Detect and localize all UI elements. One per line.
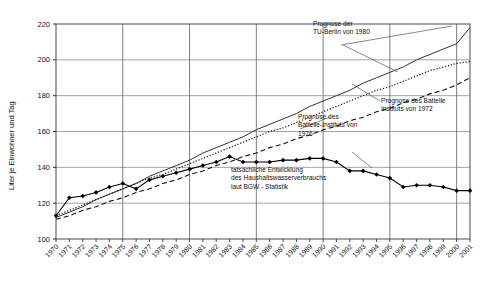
- anno-actual-line: des Haushaltswasserverbrauchs: [231, 174, 327, 181]
- anno-battelle-1972-line: Instituts von 1972: [381, 105, 433, 112]
- chart-container: 220200180160140120100 197019711972197319…: [0, 0, 493, 281]
- y-tick-label: 160: [37, 127, 50, 136]
- y-tick-label: 120: [37, 199, 50, 208]
- y-axis-title: Liter je Einwohner und Tag: [7, 101, 16, 190]
- y-tick-label: 220: [37, 20, 50, 29]
- water-consumption-line-chart: 220200180160140120100 197019711972197319…: [0, 0, 493, 281]
- y-tick-label: 140: [37, 163, 50, 172]
- anno-actual-line: laut BGW - Statistik: [231, 183, 289, 190]
- anno-tu-berlin-line: Prognose der: [313, 20, 353, 28]
- anno-battelle-1972-line: Prognose des Battelle: [381, 97, 446, 105]
- y-tick-label: 100: [37, 235, 50, 244]
- anno-tu-berlin-line: TU-Berlin von 1980: [313, 28, 370, 35]
- anno-battelle-1976-line: Battelle-Instituts von: [298, 121, 358, 128]
- y-tick-label: 180: [37, 91, 50, 100]
- y-tick-label: 200: [37, 55, 50, 64]
- anno-actual-line: tatsächliche Entwicklung: [231, 166, 303, 174]
- anno-battelle-1976-line: 1976: [298, 130, 313, 137]
- anno-battelle-1976-line: Prognose des: [298, 113, 339, 121]
